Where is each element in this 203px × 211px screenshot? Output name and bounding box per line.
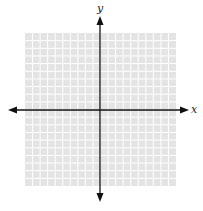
arrow-left-icon	[8, 107, 17, 114]
x-axis-label: x	[191, 104, 197, 115]
arrow-right-icon	[180, 107, 189, 114]
coordinate-grid-svg	[0, 0, 203, 211]
arrow-down-icon	[97, 193, 104, 202]
coordinate-plane: y x	[0, 0, 203, 211]
y-axis-label: y	[97, 3, 103, 14]
arrow-up-icon	[97, 16, 104, 25]
